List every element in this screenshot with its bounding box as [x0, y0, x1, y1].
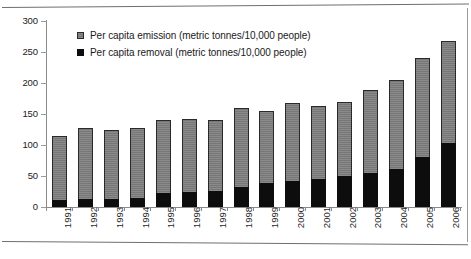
bar-segment-emission	[389, 80, 404, 169]
y-axis-tick-label-wrap: 150	[10, 109, 38, 119]
x-axis-tick	[253, 207, 254, 211]
legend-label-emission: Per capita emission (metric tonnes/10,00…	[90, 30, 310, 41]
bar-segment-removal	[415, 157, 430, 207]
x-axis-tick-label: 2001	[322, 207, 332, 247]
x-axis-tick-label: 1991	[63, 207, 73, 247]
y-axis-tick-label: 150	[12, 109, 38, 119]
y-axis-tick-label-wrap: 100	[10, 140, 38, 150]
y-axis-tick-label: 0	[12, 202, 38, 212]
bar-segment-emission	[259, 111, 274, 184]
x-axis-tick-label: 1994	[141, 207, 151, 247]
bar-segment-emission	[52, 136, 67, 200]
bar-group	[389, 21, 404, 207]
bar-segment-emission	[156, 120, 171, 193]
x-axis-tick-label: 1996	[192, 207, 202, 247]
x-axis-tick-label: 1993	[115, 207, 125, 247]
chart-legend: Per capita emission (metric tonnes/10,00…	[77, 27, 377, 61]
stacked-bar-chart: 050100150200250300 199119921993199419951…	[0, 0, 471, 259]
y-axis-tick-label-wrap: 300	[10, 16, 38, 26]
x-axis-tick	[331, 207, 332, 211]
bar-segment-removal	[337, 176, 352, 207]
x-axis-tick-label: 1999	[270, 207, 280, 247]
x-axis-tick	[98, 207, 99, 211]
x-axis-tick-label: 2000	[296, 207, 306, 247]
legend-label-removal: Per capita removal (metric tonnes/10,000…	[90, 47, 307, 58]
bar-segment-removal	[156, 193, 171, 207]
bar-segment-emission	[441, 41, 456, 143]
bar-segment-emission	[337, 102, 352, 176]
y-axis-tick-label: 50	[12, 171, 38, 181]
bar-segment-emission	[311, 106, 326, 179]
x-axis-tick-label: 2003	[373, 207, 383, 247]
bar-group	[52, 21, 67, 207]
bar-segment-removal	[311, 179, 326, 207]
y-axis-tick-label-wrap: 50	[10, 171, 38, 181]
bar-segment-emission	[285, 103, 300, 181]
bar-segment-removal	[389, 169, 404, 207]
x-axis-tick-label: 1995	[166, 207, 176, 247]
bar-group	[441, 21, 456, 207]
bar-segment-removal	[363, 173, 378, 207]
x-axis-tick-label: 1998	[244, 207, 254, 247]
bar-segment-removal	[208, 191, 223, 207]
legend-item-emission: Per capita emission (metric tonnes/10,00…	[77, 27, 377, 44]
y-axis-tick-label: 200	[12, 78, 38, 88]
bar-segment-emission	[104, 130, 119, 199]
bar-segment-emission	[234, 108, 249, 187]
x-axis-tick-label: 1992	[89, 207, 99, 247]
x-axis-tick	[175, 207, 176, 211]
x-axis-tick-label: 2004	[399, 207, 409, 247]
y-axis-tick-label-wrap: 0	[10, 202, 38, 212]
y-axis-tick-label: 250	[12, 47, 38, 57]
bar-segment-removal	[182, 192, 197, 208]
bar-segment-emission	[182, 119, 197, 192]
legend-item-removal: Per capita removal (metric tonnes/10,000…	[77, 44, 377, 61]
x-axis-tick	[150, 207, 151, 211]
y-axis-tick-label-wrap: 250	[10, 47, 38, 57]
x-axis-tick	[227, 207, 228, 211]
x-axis-tick	[382, 207, 383, 211]
x-axis-tick	[124, 207, 125, 211]
legend-swatch-removal-icon	[77, 49, 84, 56]
x-axis-tick	[279, 207, 280, 211]
x-axis-tick	[72, 207, 73, 211]
x-axis-tick	[201, 207, 202, 211]
bar-segment-removal	[285, 181, 300, 207]
x-axis-tick-label: 2005	[425, 207, 435, 247]
x-axis-tick	[460, 207, 461, 211]
bar-segment-removal	[130, 198, 145, 207]
y-axis-tick-label: 300	[12, 16, 38, 26]
x-axis-tick	[408, 207, 409, 211]
bar-segment-removal	[78, 199, 93, 207]
bar-segment-removal	[52, 200, 67, 207]
x-axis-tick	[305, 207, 306, 211]
legend-swatch-emission-icon	[77, 32, 84, 39]
y-axis-tick-label: 100	[12, 140, 38, 150]
x-axis-tick-label: 2006	[451, 207, 461, 247]
x-axis-tick-label: 2002	[348, 207, 358, 247]
x-axis-tick	[357, 207, 358, 211]
bar-segment-emission	[415, 58, 430, 157]
bar-segment-emission	[78, 128, 93, 199]
x-axis-tick	[434, 207, 435, 211]
y-axis-tick-label-wrap: 200	[10, 78, 38, 88]
bar-segment-removal	[234, 187, 249, 207]
bar-segment-emission	[208, 120, 223, 191]
bar-group	[415, 21, 430, 207]
bar-segment-removal	[441, 143, 456, 207]
bar-segment-removal	[259, 183, 274, 207]
bar-segment-removal	[104, 199, 119, 207]
x-axis-tick	[46, 207, 47, 211]
x-axis-tick-label: 1997	[218, 207, 228, 247]
bar-segment-emission	[130, 128, 145, 199]
bar-segment-emission	[363, 90, 378, 172]
